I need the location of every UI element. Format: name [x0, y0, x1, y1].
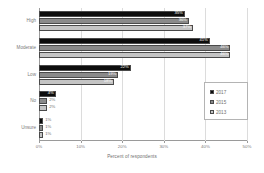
bar-row: 37%	[39, 25, 247, 31]
x-tick-mark	[39, 141, 40, 143]
bar-value-label: 37%	[179, 24, 191, 30]
bar-chart: HighModerateLowNoUnsure 35%36%37%41%46%4…	[0, 0, 264, 173]
bar-value-label: 46%	[216, 51, 228, 57]
bar	[39, 11, 185, 17]
bar-group: 1%1%1%	[39, 118, 247, 139]
legend-swatch	[210, 100, 214, 104]
category-label: Low	[28, 72, 36, 77]
x-tick-label: 40%	[201, 144, 210, 149]
bar-row: 35%	[39, 11, 247, 17]
bar	[39, 38, 210, 44]
x-tick-mark	[81, 141, 82, 143]
bar-value-label: 41%	[196, 37, 208, 43]
legend-label: 2013	[216, 110, 226, 115]
category-label: Unsure	[21, 125, 36, 130]
legend-item[interactable]: 2013	[210, 107, 247, 117]
bar-value-label: 1%	[45, 131, 51, 137]
bar-value-label: 19%	[104, 71, 116, 77]
plot-area: 35%36%37%41%46%46%22%19%18%4%2%2%1%1%1%	[39, 8, 247, 141]
bar	[39, 25, 193, 31]
legend-swatch	[210, 90, 214, 94]
x-tick-label: 50%	[243, 144, 252, 149]
bar-value-label: 36%	[175, 17, 187, 23]
bar-row: 19%	[39, 72, 247, 78]
bar	[39, 105, 47, 111]
bar-value-label: 2%	[49, 104, 55, 110]
x-tick-mark	[164, 141, 165, 143]
bar	[39, 45, 230, 51]
x-tick-label: 0%	[36, 144, 42, 149]
bar-value-label: 1%	[45, 117, 51, 123]
x-tick-mark	[122, 141, 123, 143]
gridline	[247, 8, 248, 141]
bar-value-label: 1%	[45, 124, 51, 130]
bar	[39, 52, 230, 58]
bar-value-label: 4%	[42, 90, 54, 96]
legend-label: 2015	[216, 100, 226, 105]
category-label: Moderate	[17, 45, 36, 50]
bar	[39, 18, 189, 24]
x-axis-title: Percent of respondents	[0, 154, 264, 159]
category-label: High	[27, 18, 36, 23]
bar-row: 46%	[39, 52, 247, 58]
x-tick-label: 20%	[118, 144, 127, 149]
bar-value-label: 35%	[171, 10, 183, 16]
bar-value-label: 18%	[100, 78, 112, 84]
legend-item[interactable]: 2017	[210, 87, 247, 97]
bar	[39, 118, 43, 124]
bar-row: 1%	[39, 125, 247, 131]
bar	[39, 132, 43, 138]
legend-swatch	[210, 110, 214, 114]
bar-value-label: 46%	[216, 44, 228, 50]
category-label: No	[30, 98, 36, 103]
bar	[39, 98, 47, 104]
bar-group: 41%46%46%	[39, 38, 247, 59]
x-tick-mark	[205, 141, 206, 143]
bar-row: 36%	[39, 18, 247, 24]
bar-value-label: 2%	[49, 97, 55, 103]
bar-group: 35%36%37%	[39, 11, 247, 32]
x-tick-label: 10%	[76, 144, 85, 149]
x-tick-mark	[247, 141, 248, 143]
category-axis-labels: HighModerateLowNoUnsure	[0, 8, 36, 141]
bar-row: 22%	[39, 65, 247, 71]
bar-row: 1%	[39, 132, 247, 138]
x-axis-line	[39, 140, 247, 141]
bar-value-label: 22%	[117, 64, 129, 70]
legend: 201720152013	[204, 82, 248, 120]
legend-item[interactable]: 2015	[210, 97, 247, 107]
x-tick-label: 30%	[159, 144, 168, 149]
legend-label: 2017	[216, 90, 226, 95]
bar	[39, 125, 43, 131]
